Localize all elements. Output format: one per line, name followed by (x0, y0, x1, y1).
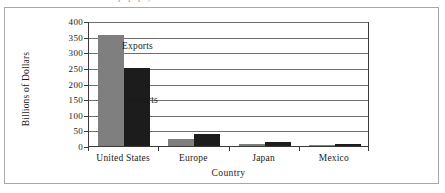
x-axis-tick-label: Mexico (319, 153, 349, 163)
y-axis-tick-label: 400 (69, 17, 83, 27)
bar-exports-japan (239, 144, 265, 147)
x-axis-title: Country (88, 168, 369, 178)
y-axis-title: Billions of Dollars (21, 35, 31, 143)
bar-imports-united-states (124, 68, 150, 146)
y-axis-tick-label: 200 (69, 80, 83, 90)
annotation-exports: Exports (122, 41, 153, 51)
y-axis-tick-label: 250 (69, 64, 83, 74)
bar-chart: Billions of Dollars 05010015020025030035… (5, 8, 438, 183)
annotation-imports: Imports (127, 95, 158, 105)
plot-area: ExportsImports (88, 22, 369, 147)
y-axis-tick-label: 100 (69, 111, 83, 121)
x-axis-tick-labels: United StatesEuropeJapanMexico (88, 153, 369, 167)
x-axis-tick (88, 147, 89, 151)
x-axis-ticks (88, 147, 369, 152)
x-axis-tick-label: Europe (179, 153, 208, 163)
y-axis-tick-labels: 050100150200250300350400 (51, 22, 83, 147)
x-axis-tick (368, 147, 369, 151)
bar-imports-mexico (335, 144, 361, 146)
y-axis-tick-label: 50 (73, 126, 83, 136)
bar-exports-united-states (98, 35, 124, 146)
bar-exports-mexico (309, 145, 335, 146)
x-axis-tick-label: United States (96, 153, 150, 163)
x-axis-tick (299, 147, 300, 151)
bar-imports-japan (265, 142, 291, 146)
bar-exports-europe (168, 139, 194, 146)
y-axis-tick-label: 150 (69, 95, 83, 105)
clipped-caption-strip: p p p , (0, 0, 445, 5)
y-axis-tick-label: 0 (78, 142, 83, 152)
figure-frame: Billions of Dollars 05010015020025030035… (4, 7, 439, 184)
x-axis-tick (158, 147, 159, 151)
clipped-caption-text: p p p , (118, 0, 151, 2)
y-axis-tick-label: 350 (69, 33, 83, 43)
x-axis-tick (229, 147, 230, 151)
x-axis-tick-label: Japan (252, 153, 275, 163)
y-axis-tick-label: 300 (69, 48, 83, 58)
bar-imports-europe (194, 134, 220, 147)
